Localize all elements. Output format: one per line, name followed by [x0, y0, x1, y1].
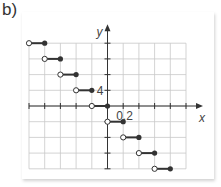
closed-endpoint: [74, 72, 79, 77]
closed-endpoint: [136, 135, 141, 140]
y-tick-label: 4: [97, 84, 104, 98]
x-axis-arrow-icon: [196, 103, 203, 109]
open-endpoint: [105, 119, 110, 124]
closed-endpoint: [168, 166, 173, 171]
open-endpoint: [89, 103, 94, 108]
open-endpoint: [136, 151, 141, 156]
closed-endpoint: [152, 151, 157, 156]
y-axis-label: y: [96, 25, 104, 39]
open-endpoint: [74, 88, 79, 93]
closed-endpoint: [42, 41, 47, 46]
closed-endpoint: [105, 103, 110, 108]
x-axis-label: x: [198, 111, 206, 125]
open-endpoint: [42, 56, 47, 61]
closed-endpoint: [58, 56, 63, 61]
closed-endpoint: [89, 88, 94, 93]
step-function-chart: xy0.24: [0, 0, 221, 187]
open-endpoint: [58, 72, 63, 77]
open-endpoint: [26, 41, 31, 46]
open-endpoint: [121, 135, 126, 140]
closed-endpoint: [121, 119, 126, 124]
y-axis-arrow-icon: [105, 24, 111, 31]
open-endpoint: [152, 166, 157, 171]
